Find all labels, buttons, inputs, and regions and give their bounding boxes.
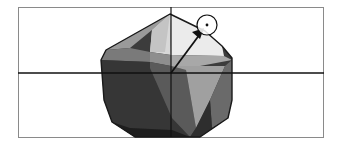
target-marker (197, 15, 217, 35)
polyhedron-diagram (0, 0, 343, 146)
target-dot-icon (206, 24, 209, 27)
